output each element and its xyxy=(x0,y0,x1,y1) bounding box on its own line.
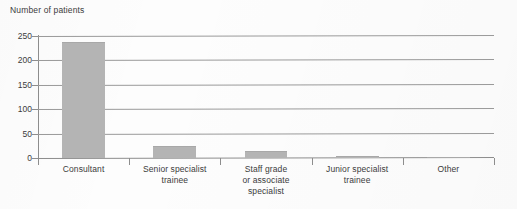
y-tick-label-0: 0 xyxy=(6,153,32,163)
x-tick-label-line: specialist xyxy=(220,186,311,197)
x-tick-label-line: Other xyxy=(403,164,494,175)
chart-figure: Number of patients 050100150200250 Consu… xyxy=(0,0,517,209)
x-tick-mark xyxy=(494,158,495,165)
gridline-200 xyxy=(38,59,494,61)
y-axis-title: Number of patients xyxy=(10,5,85,15)
y-tick-label-100: 100 xyxy=(6,104,32,114)
bar xyxy=(245,151,288,158)
gridline-100 xyxy=(38,108,494,110)
x-axis-tick-labels: ConsultantSenior specialisttraineeStaff … xyxy=(38,164,494,208)
gridline-150 xyxy=(38,84,494,86)
x-tick-label: Other xyxy=(403,164,494,175)
bar xyxy=(62,42,105,158)
x-tick-label: Junior specialisttrainee xyxy=(312,164,403,186)
y-tick-label-200: 200 xyxy=(6,55,32,65)
gridline-250 xyxy=(38,35,494,37)
x-tick-label-line: Junior specialist xyxy=(312,164,403,175)
y-tick-label-50: 50 xyxy=(6,129,32,139)
x-tick-label-line: Consultant xyxy=(38,164,129,175)
x-tick-label-line: or associate xyxy=(220,175,311,186)
x-tick-label-line: trainee xyxy=(312,175,403,186)
bar xyxy=(153,146,196,158)
x-tick-label: Staff gradeor associatespecialist xyxy=(220,164,311,197)
x-tick-label: Senior specialisttrainee xyxy=(129,164,220,186)
y-tick-label-150: 150 xyxy=(6,80,32,90)
gridline-50 xyxy=(38,132,494,134)
x-tick-label: Consultant xyxy=(38,164,129,175)
x-tick-label-line: Staff grade xyxy=(220,164,311,175)
y-axis-tick-labels: 050100150200250 xyxy=(6,36,32,158)
y-tick-label-250: 250 xyxy=(6,31,32,41)
plot-area xyxy=(38,36,494,158)
x-tick-label-line: trainee xyxy=(129,175,220,186)
x-tick-label-line: Senior specialist xyxy=(129,164,220,175)
